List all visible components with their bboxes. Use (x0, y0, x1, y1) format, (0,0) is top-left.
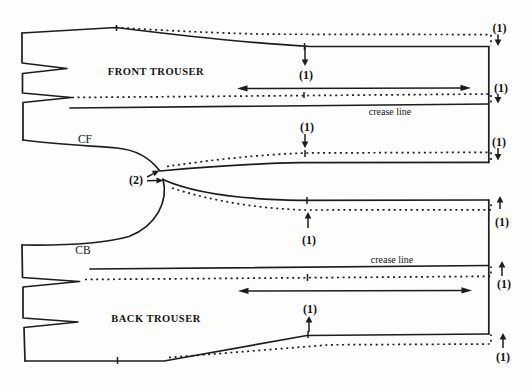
shift-amount-label: (1) (303, 302, 317, 316)
up-arrow (499, 261, 506, 276)
front-inseam (160, 162, 489, 171)
back-shift-arrows (305, 196, 507, 348)
shift-amount-label: (1) (493, 21, 507, 35)
shift-amount-label: (1) (496, 350, 510, 364)
back-crease-line-label: crease line (371, 254, 414, 265)
front-trouser-title: FRONT TROUSER (108, 66, 204, 77)
shift-amount-label: (1) (494, 81, 508, 95)
trouser-alteration-diagram: FRONT TROUSER BACK TROUSER CF CB crease … (0, 0, 530, 385)
shift-amount-label: (1) (495, 215, 509, 229)
up-arrow (500, 333, 507, 348)
back-hem-bottom-dashed (169, 335, 491, 358)
front-side-seam-dashed (116, 28, 491, 47)
right-arrow (147, 171, 160, 178)
front-side-seam (22, 28, 489, 47)
crotch-extension-arrows (147, 171, 164, 184)
front-inseam-dashed (167, 152, 491, 166)
front-trouser-piece (22, 28, 491, 172)
front-shift-arrows (302, 35, 502, 161)
down-arrow (302, 134, 309, 148)
shift-amount-label: (1) (302, 233, 316, 247)
down-arrow (495, 35, 502, 47)
crotch-extension-label: (2) (129, 173, 143, 187)
back-slide-double-arrow (238, 287, 472, 294)
front-slide-double-arrow (237, 85, 471, 92)
back-trouser-piece (22, 179, 491, 361)
right-arrow (147, 178, 164, 184)
down-arrow (495, 148, 502, 161)
back-cb-line (22, 179, 164, 245)
front-crease-dashed (72, 94, 491, 104)
front-crease-line (70, 104, 489, 108)
front-waist-edge-with-darts (22, 33, 72, 140)
back-crease-line (90, 266, 489, 270)
up-arrow (305, 212, 312, 228)
cf-label: CF (78, 133, 92, 145)
shift-amount-label: (1) (299, 68, 313, 82)
shift-amount-label: (1) (300, 120, 314, 134)
up-arrow (306, 316, 313, 332)
shift-amount-label: (1) (497, 277, 511, 291)
back-inseam-dashed (172, 188, 491, 210)
down-arrow (495, 94, 502, 104)
front-crease-line-label: crease line (369, 106, 412, 117)
cb-label: CB (75, 244, 91, 256)
back-inseam (163, 180, 489, 201)
back-hem-bottom-edge (25, 334, 489, 361)
back-waist-edge-with-darts (22, 245, 80, 361)
up-arrow (497, 196, 504, 209)
down-arrow (302, 47, 309, 66)
pattern-diagram-page: FRONT TROUSER BACK TROUSER CF CB crease … (0, 0, 530, 385)
shift-amount-label: (1) (492, 135, 506, 149)
back-trouser-title: BACK TROUSER (111, 313, 201, 324)
